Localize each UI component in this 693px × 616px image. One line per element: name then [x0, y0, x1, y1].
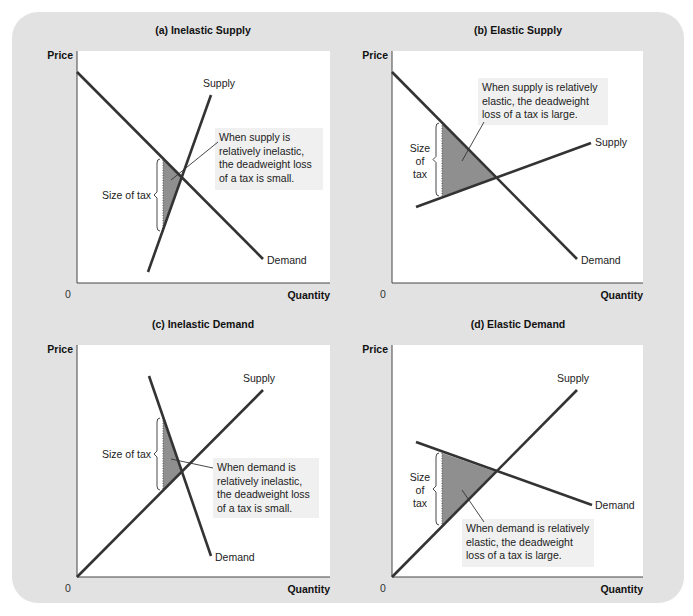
supply-curve-label: Supply — [557, 372, 590, 384]
tax-size-label: Size — [410, 142, 431, 154]
supply-curve-label: Supply — [243, 372, 276, 384]
demand-curve-label: Demand — [215, 551, 255, 563]
panel-b: (b) Elastic SupplyPriceQuantity0Sizeofta… — [362, 24, 643, 301]
tax-size-label: tax — [413, 497, 428, 509]
y-axis-label: Price — [47, 49, 73, 61]
demand-curve-label: Demand — [581, 254, 621, 266]
origin-label: 0 — [380, 288, 386, 300]
y-axis-label: Price — [362, 343, 388, 355]
tax-size-label: Size of tax — [102, 189, 152, 201]
annotation-text: When supply is — [219, 131, 290, 143]
panel-c: (c) Inelastic DemandPriceQuantity0Size o… — [47, 318, 330, 595]
panel-title: (d) Elastic Demand — [471, 318, 566, 330]
annotation-text: the deadweight loss — [217, 488, 310, 500]
annotation-text: the deadweight loss — [219, 158, 312, 170]
panel-a: (a) Inelastic SupplyPriceQuantity0Size o… — [47, 24, 330, 301]
panel-title: (a) Inelastic Supply — [155, 24, 251, 36]
origin-label: 0 — [65, 288, 71, 300]
supply-curve-label: Supply — [203, 77, 236, 89]
y-axis-label: Price — [47, 343, 73, 355]
tax-size-label: of — [416, 155, 425, 167]
annotation-text: loss of a tax is large. — [466, 549, 562, 561]
annotation-text: When supply is relatively — [482, 81, 598, 93]
tax-size-label: Size — [410, 471, 431, 483]
x-axis-label: Quantity — [600, 583, 643, 595]
demand-curve-label: Demand — [267, 254, 307, 266]
panel-title: (c) Inelastic Demand — [152, 318, 254, 330]
annotation-text: elastic, the deadweight — [482, 95, 589, 107]
annotation-text: elastic, the deadweight — [466, 536, 573, 548]
origin-label: 0 — [65, 582, 71, 594]
panel-title: (b) Elastic Supply — [474, 24, 562, 36]
annotation-text: relatively inelastic, — [219, 145, 304, 157]
deadweight-loss-figure: (a) Inelastic SupplyPriceQuantity0Size o… — [0, 0, 693, 616]
annotation-text: relatively inelastic, — [217, 475, 302, 487]
annotation-text: When demand is relatively — [466, 522, 590, 534]
annotation-text: of a tax is small. — [217, 502, 292, 514]
supply-curve-label: Supply — [595, 136, 628, 148]
x-axis-label: Quantity — [287, 583, 330, 595]
x-axis-label: Quantity — [287, 289, 330, 301]
panel-d: (d) Elastic DemandPriceQuantity0Sizeofta… — [362, 318, 643, 595]
annotation-text: of a tax is small. — [219, 172, 294, 184]
x-axis-label: Quantity — [600, 289, 643, 301]
demand-curve-label: Demand — [595, 499, 635, 511]
tax-size-label: Size of tax — [102, 448, 152, 460]
tax-size-label: tax — [413, 168, 428, 180]
annotation-text: loss of a tax is large. — [482, 108, 578, 120]
y-axis-label: Price — [362, 49, 388, 61]
origin-label: 0 — [380, 582, 386, 594]
annotation-text: When demand is — [217, 461, 296, 473]
tax-size-label: of — [416, 484, 425, 496]
